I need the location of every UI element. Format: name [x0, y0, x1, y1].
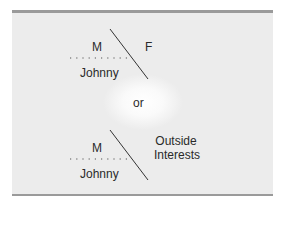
bottom-m-label: M — [92, 141, 102, 155]
top-m-label: M — [92, 40, 102, 54]
top-f-label: F — [145, 40, 152, 54]
or-label: or — [133, 96, 144, 110]
outside-interests-label: Outside Interests — [154, 134, 198, 162]
top-johnny-label: Johnny — [80, 66, 119, 80]
outside-interests-line2: Interests — [154, 148, 198, 162]
outside-interests-line1: Outside — [154, 134, 198, 148]
bottom-johnny-label: Johnny — [80, 167, 119, 181]
